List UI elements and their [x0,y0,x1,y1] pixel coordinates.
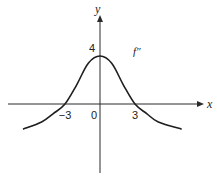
y-axis-label: y [94,2,101,16]
x-axis-label: x [206,97,213,111]
x-tick-label: −3 [59,109,72,121]
x-tick-label: 3 [132,109,138,121]
y-axis: y [94,2,103,173]
x-axis-arrow-icon [197,101,204,107]
chart: x y −3034 f″ [0,0,217,180]
series-line-f-double-prime [23,56,182,129]
x-axis: x [8,97,213,111]
tick-labels: −3034 [59,42,138,121]
x-tick-label: 0 [91,109,97,121]
function-label: f″ [133,45,141,57]
y-axis-arrow-icon [97,15,103,22]
y-tick-label: 4 [89,42,95,54]
